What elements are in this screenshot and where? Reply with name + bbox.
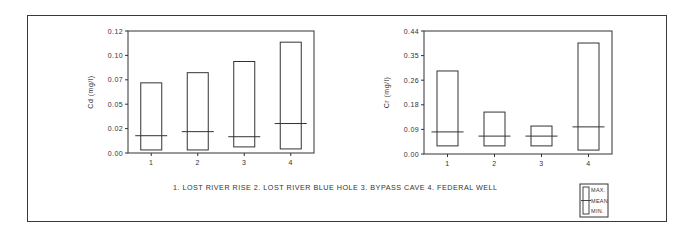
y-axis-title: Cd (mg/l) <box>87 75 95 108</box>
legend: MAX.MEANMIN. <box>580 184 608 217</box>
range-bar-site-1 <box>135 83 167 150</box>
y-tick-label: 0.07 <box>108 76 123 83</box>
y-tick-label: 0.00 <box>404 151 419 158</box>
chart-canvas: 0.000.020.050.070.100.12Cd (mg/l)12340.0… <box>0 0 692 238</box>
y-tick-label: 0.35 <box>404 52 419 59</box>
y-tick-label: 0.12 <box>108 28 123 35</box>
min-max-box <box>234 62 255 147</box>
y-tick-label: 0.26 <box>404 77 419 84</box>
y-tick-label: 0.05 <box>108 101 123 108</box>
range-bar-site-2 <box>182 73 214 150</box>
x-tick-label: 4 <box>289 159 293 166</box>
y-tick-label: 0.10 <box>108 52 123 59</box>
legend-label-mean: MEAN <box>591 198 608 204</box>
legend-label-max: MAX. <box>591 187 606 193</box>
x-tick-label: 4 <box>586 160 590 167</box>
x-tick-label: 2 <box>492 160 496 167</box>
x-tick-label: 3 <box>242 159 246 166</box>
range-bar-site-3 <box>526 126 558 146</box>
min-max-box <box>437 71 458 146</box>
legend-label-min: MIN. <box>591 208 604 214</box>
min-max-box <box>141 83 162 150</box>
chart-cd: 0.000.020.050.070.100.12Cd (mg/l)1234 <box>87 28 314 167</box>
y-tick-label: 0.09 <box>404 126 419 133</box>
plot-area <box>128 31 314 153</box>
y-tick-label: 0.18 <box>404 101 419 108</box>
range-bar-site-4 <box>275 42 307 149</box>
y-tick-label: 0.00 <box>108 150 123 157</box>
y-tick-label: 0.02 <box>108 125 123 132</box>
min-max-box <box>484 112 505 146</box>
min-max-box <box>578 43 599 150</box>
site-caption: 1. LOST RIVER RISE 2. LOST RIVER BLUE HO… <box>173 183 498 192</box>
x-tick-label: 1 <box>149 159 153 166</box>
range-bar-site-2 <box>479 112 511 146</box>
y-axis-title: Cr (mg/l) <box>383 77 391 109</box>
plot-area <box>424 31 612 154</box>
range-bar-site-1 <box>432 71 464 146</box>
range-bar-site-4 <box>573 43 605 150</box>
chart-cr: 0.000.090.180.260.350.44Cr (mg/l)1234 <box>383 28 612 168</box>
x-tick-label: 3 <box>539 160 543 167</box>
x-tick-label: 1 <box>445 160 449 167</box>
min-max-box <box>280 42 301 149</box>
min-max-box <box>187 73 208 150</box>
range-bar-site-3 <box>228 62 260 147</box>
x-tick-label: 2 <box>196 159 200 166</box>
y-tick-label: 0.44 <box>404 28 419 35</box>
